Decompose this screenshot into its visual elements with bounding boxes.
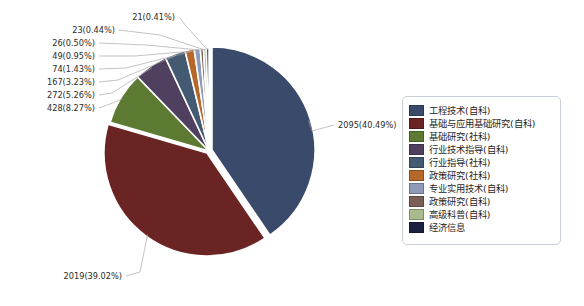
data-label-leader-line bbox=[126, 235, 148, 276]
pie-data-label: 23(0.44%) bbox=[72, 25, 115, 35]
legend-item[interactable]: 基础与应用基础研究(自科) bbox=[409, 117, 554, 130]
legend-color-swatch bbox=[409, 118, 424, 129]
legend-item-label: 政策研究(自科) bbox=[429, 196, 490, 207]
legend-item-label: 经济信息 bbox=[429, 222, 465, 233]
legend-color-swatch bbox=[409, 131, 424, 142]
legend-item[interactable]: 政策研究(自科) bbox=[409, 195, 554, 208]
pie-data-label: 26(0.50%) bbox=[52, 38, 95, 48]
legend-item[interactable]: 行业技术指导(自科) bbox=[409, 143, 554, 156]
legend-item[interactable]: 政策研究(社科) bbox=[409, 169, 554, 182]
pie-data-label: 428(8.27%) bbox=[47, 103, 95, 113]
pie-data-label: 272(5.26%) bbox=[47, 90, 95, 100]
legend-item-label: 行业技术指导(自科) bbox=[429, 144, 508, 155]
legend-color-swatch bbox=[409, 105, 424, 116]
chart-legend: 工程技术(自科)基础与应用基础研究(自科)基础研究(社科)行业技术指导(自科)行… bbox=[402, 96, 561, 245]
legend-color-swatch bbox=[409, 222, 424, 233]
legend-item[interactable]: 高级科普(自科) bbox=[409, 208, 554, 221]
pie-data-label: 21(0.41%) bbox=[132, 12, 175, 22]
legend-item-label: 政策研究(社科) bbox=[429, 170, 490, 181]
legend-color-swatch bbox=[409, 196, 424, 207]
legend-item-label: 行业指导(社科) bbox=[429, 157, 490, 168]
legend-item[interactable]: 经济信息 bbox=[409, 221, 554, 234]
legend-item-label: 基础与应用基础研究(自科) bbox=[429, 118, 535, 129]
legend-color-swatch bbox=[409, 157, 424, 168]
legend-item[interactable]: 工程技术(自科) bbox=[409, 104, 554, 117]
legend-item-label: 基础研究(社科) bbox=[429, 131, 490, 142]
pie-data-label: 2019(39.02%) bbox=[64, 271, 122, 281]
legend-item-label: 高级科普(自科) bbox=[429, 209, 490, 220]
pie-data-label: 167(3.23%) bbox=[47, 77, 95, 87]
legend-item-label: 工程技术(自科) bbox=[429, 105, 490, 116]
legend-item[interactable]: 基础研究(社科) bbox=[409, 130, 554, 143]
data-label-leader-line bbox=[179, 17, 208, 50]
legend-item[interactable]: 行业指导(社科) bbox=[409, 156, 554, 169]
pie-data-label: 2095(40.49%) bbox=[338, 120, 396, 130]
pie-data-label: 49(0.95%) bbox=[52, 51, 95, 61]
legend-color-swatch bbox=[409, 183, 424, 194]
legend-color-swatch bbox=[409, 144, 424, 155]
legend-item-label: 专业实用技术(自科) bbox=[429, 183, 508, 194]
pie-data-label: 74(1.43%) bbox=[52, 64, 95, 74]
pie-chart-container: 2095(40.49%)2019(39.02%)428(8.27%)272(5.… bbox=[0, 0, 584, 306]
legend-color-swatch bbox=[409, 170, 424, 181]
legend-item[interactable]: 专业实用技术(自科) bbox=[409, 182, 554, 195]
legend-color-swatch bbox=[409, 209, 424, 220]
